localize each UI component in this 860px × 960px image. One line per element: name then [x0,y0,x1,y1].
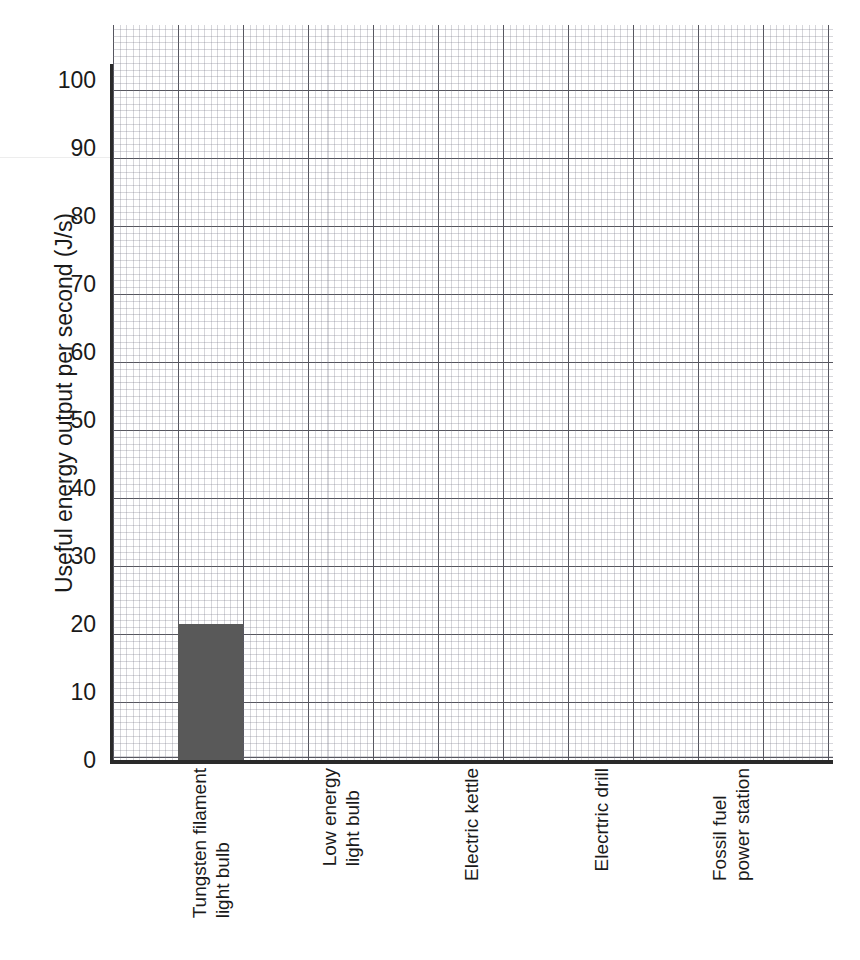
x-axis-category-line: Low energy [318,768,341,866]
x-axis-category-text: Elecrtric drill [590,768,613,871]
x-axis-category-label: Low energylight bulb [281,768,401,954]
y-tick-label: 60 [0,341,96,364]
y-tick-label: 30 [0,545,96,568]
y-tick-label: 50 [0,409,96,432]
x-axis-line [110,760,833,764]
y-tick-label: 20 [0,613,96,636]
x-axis-category-label: Elecrtric drill [541,768,661,954]
y-tick-label: 90 [0,137,96,160]
y-axis-line [110,64,113,764]
x-axis-category-text: Electric kettle [460,768,483,881]
y-tick-label: 80 [0,205,96,228]
x-axis-category-line: Electric kettle [460,768,483,881]
plot-area [113,25,833,760]
x-axis-category-label: Fossil fuelpower station [671,768,791,954]
bar [178,624,243,760]
y-tick-label: 100 [0,69,96,92]
y-axis-tick-labels: 0102030405060708090100 [0,0,96,960]
y-tick-label: 70 [0,273,96,296]
x-axis-category-line: Tungsten filament [188,768,211,918]
x-axis-category-line: light bulb [211,768,234,918]
x-axis-category-text: Low energylight bulb [318,768,364,866]
x-axis-category-line: power station [731,768,754,881]
x-axis-category-line: Fossil fuel [708,768,731,881]
x-axis-category-text: Fossil fuelpower station [708,768,754,881]
bar-chart: Useful energy output per second (J/s) 01… [0,0,860,960]
y-tick-label: 0 [0,749,96,772]
x-axis-category-line: light bulb [341,768,364,866]
y-tick-label: 10 [0,681,96,704]
x-axis-category-label: Tungsten filamentlight bulb [151,768,271,954]
y-tick-label: 40 [0,477,96,500]
x-axis-category-text: Tungsten filamentlight bulb [188,768,234,918]
x-axis-category-line: Elecrtric drill [590,768,613,871]
x-axis-category-label: Electric kettle [411,768,531,954]
x-axis-category-labels: Tungsten filamentlight bulbLow energylig… [113,768,833,958]
